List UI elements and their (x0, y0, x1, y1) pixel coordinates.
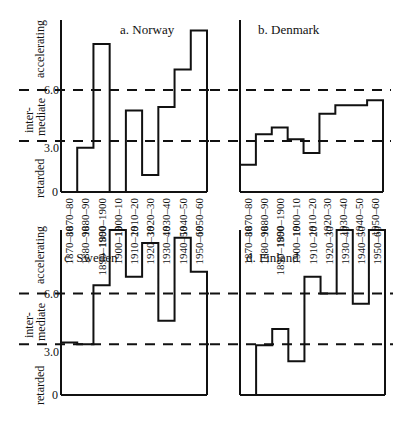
panel-title: a. Norway (120, 22, 175, 37)
category-label: 1940–50 (355, 226, 367, 265)
band-label-accelerating: accelerating (33, 20, 47, 78)
category-label: 1900–10 (112, 226, 124, 265)
band-label-retarded: retarded (33, 159, 47, 198)
band-label-mediate: mediate (34, 303, 48, 341)
ytick-3: 3.0 (44, 141, 59, 155)
y-axis-labels-top: accelerating inter- mediate retarded 6.0… (22, 20, 59, 199)
ytick-0: 0 (52, 388, 58, 402)
category-label: 1870–80 (63, 226, 75, 265)
category-label: 1920–30 (323, 226, 335, 265)
panel-finland: d. Finland1870–801880–901890–19001900–10… (210, 226, 393, 396)
band-label-retarded: retarded (33, 366, 47, 405)
category-label: 1910–20 (128, 226, 140, 265)
panel-sweden: c. Sweden1870–801880–901890–19001900–101… (19, 226, 215, 396)
category-label: 1870–80 (242, 226, 254, 265)
ytick-3: 3.0 (44, 345, 59, 359)
category-label: 1950–60 (193, 226, 205, 265)
category-label: 1890–1900 (96, 226, 108, 276)
panels: a. Norway1870–801880–901890–19001900–101… (19, 20, 393, 395)
category-label: 1940–50 (177, 226, 189, 265)
step-series (240, 100, 383, 192)
band-label-mediate: mediate (34, 98, 48, 136)
category-label: 1900–10 (290, 226, 302, 265)
category-label: 1920–30 (144, 226, 156, 265)
category-label: 1930–40 (160, 226, 172, 265)
category-label: 1910–20 (307, 226, 319, 265)
panel-denmark: b. Denmark1870–801880–901890–19001900–10… (210, 20, 391, 248)
step-series (61, 31, 207, 193)
category-label: 1950–60 (371, 226, 383, 265)
category-label: 1880–90 (258, 226, 270, 265)
category-label: 1880–90 (79, 226, 91, 265)
category-label: 1890–1900 (274, 226, 286, 276)
panel-title: b. Denmark (258, 22, 320, 37)
band-label-accelerating: accelerating (33, 226, 47, 284)
chart-canvas: accelerating inter- mediate retarded 6.0… (0, 0, 407, 421)
y-axis-labels-bottom: accelerating inter- mediate retarded 6.0… (22, 226, 59, 405)
ytick-0: 0 (52, 185, 58, 199)
category-label: 1930–40 (339, 226, 351, 265)
panel-norway: a. Norway1870–801880–901890–19001900–101… (19, 20, 215, 248)
